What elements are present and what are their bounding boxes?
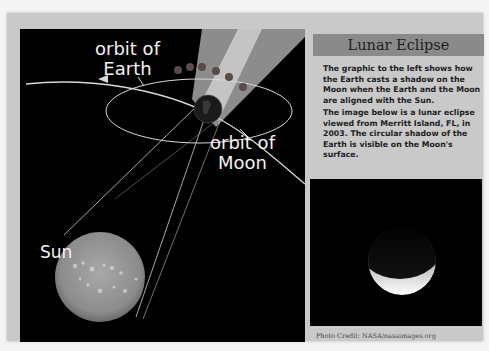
eclipse-diagram-graphic [20,29,305,342]
moon-phase-1 [186,63,194,71]
moon-phase-3 [212,67,220,75]
orbit-of-earth-label-line1: orbit of [95,39,160,59]
lunar-eclipse-card: orbit of Earth orbit of Moon Sun Lunar E… [7,13,483,341]
orbit-of-earth-label: orbit of Earth [95,39,160,79]
earth-shadow [356,207,444,279]
sun-ray-right [143,121,220,319]
sun-ray-left [64,105,198,235]
orbit-of-moon-label-line1: orbit of [210,133,275,153]
orbit-of-moon-label-line2: Moon [210,153,275,173]
photo-credit: Photo Credit: NASA/nasaimages.org [316,332,436,340]
moon-phase-4 [225,73,233,81]
moon-phase-0 [174,66,182,74]
orbit-of-moon-label: orbit of Moon [210,133,275,173]
orbit-of-earth-label-line2: Earth [95,59,160,79]
sun-label: Sun [40,243,72,262]
lunar-eclipse-photo [310,179,482,326]
info-panel: Lunar Eclipse The graphic to the left sh… [308,27,489,347]
moon-phase-5 [239,83,247,91]
moon-phase-2 [198,63,206,71]
eclipsed-moon-graphic [310,179,482,326]
sun-ray-inner [115,114,225,199]
description-paragraph-2: The image below is a lunar eclipse viewe… [323,108,483,161]
panel-title: Lunar Eclipse [313,34,484,56]
description-paragraph-1: The graphic to the left shows how the Ea… [323,64,483,106]
eclipse-diagram: orbit of Earth orbit of Moon Sun [20,29,305,342]
